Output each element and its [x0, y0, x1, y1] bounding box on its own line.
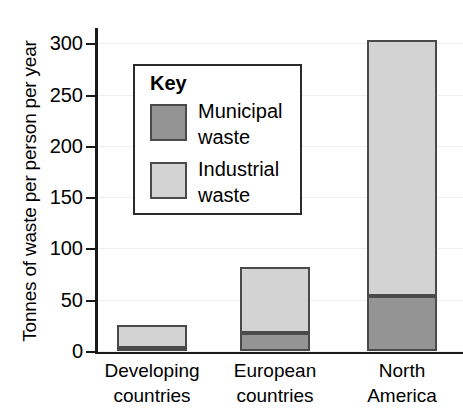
x-axis-label-line1: European — [205, 358, 345, 383]
y-axis-tick — [86, 95, 97, 97]
x-axis-label: NorthAmerica — [332, 358, 463, 408]
y-axis-tick-label: 50 — [61, 288, 83, 311]
waste-stacked-bar-chart: Tonnes of waste per person per year 0501… — [0, 0, 463, 420]
legend-swatch-industrial-icon — [150, 162, 187, 199]
y-axis-title: Tonnes of waste per person per year — [19, 11, 41, 371]
y-axis-tick — [86, 300, 97, 302]
bar-segment-industrial[interactable] — [240, 267, 310, 333]
x-axis-labels: DevelopingcountriesEuropeancountriesNort… — [95, 358, 463, 420]
bar-segment-industrial[interactable] — [117, 325, 187, 348]
y-axis-tick — [86, 146, 97, 148]
y-axis-tick-label: 250 — [50, 83, 83, 106]
legend-label-line1: Industrial — [198, 156, 279, 182]
legend-label-municipal: Municipalwaste — [198, 98, 282, 150]
legend-label-line2: waste — [198, 182, 279, 208]
x-axis-label: Developingcountries — [82, 358, 222, 408]
x-axis-label-line2: countries — [82, 383, 222, 408]
x-axis-label-line1: North — [332, 358, 463, 383]
legend-label-line1: Municipal — [198, 98, 282, 124]
y-axis-tick — [86, 351, 97, 353]
y-axis-tick — [86, 248, 97, 250]
x-axis-label-line2: countries — [205, 383, 345, 408]
bar-group[interactable] — [240, 267, 310, 351]
y-axis-tick — [86, 43, 97, 45]
legend-label-industrial: Industrialwaste — [198, 156, 279, 208]
y-axis-tick-label: 300 — [50, 32, 83, 55]
bar-group[interactable] — [367, 40, 437, 351]
bar-segment-industrial[interactable] — [367, 40, 437, 295]
bar-segment-municipal[interactable] — [117, 347, 187, 351]
x-axis-label: Europeancountries — [205, 358, 345, 408]
bar-segment-municipal[interactable] — [367, 296, 437, 351]
y-axis-tick-label: 200 — [50, 134, 83, 157]
legend-swatch-municipal-icon — [150, 104, 187, 141]
gridline — [98, 351, 463, 352]
legend-title: Key — [150, 72, 187, 95]
y-axis-line — [95, 28, 98, 354]
bar-group[interactable] — [117, 325, 187, 351]
bar-segment-municipal[interactable] — [240, 333, 310, 351]
y-axis-tick-label: 150 — [50, 186, 83, 209]
y-axis-tick-label: 100 — [50, 237, 83, 260]
x-axis-label-line2: America — [332, 383, 463, 408]
legend-item-municipal: Municipalwaste — [150, 102, 300, 152]
legend-item-industrial: Industrialwaste — [150, 160, 300, 210]
x-axis-label-line1: Developing — [82, 358, 222, 383]
chart-legend: Key Municipalwaste Industrialwaste — [133, 64, 302, 215]
legend-label-line2: waste — [198, 124, 282, 150]
y-axis-tick — [86, 197, 97, 199]
